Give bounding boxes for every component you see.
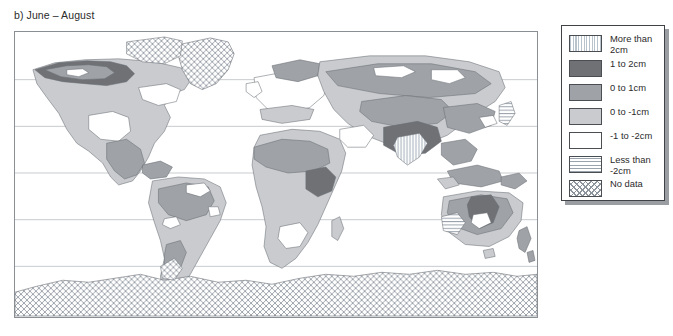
legend-swatch-1-to-2cm	[569, 60, 602, 77]
legend-label-0-to-1cm: 0 to 1cm	[610, 83, 646, 94]
legend-item-0-to-minus-1cm: 0 to -1cm	[569, 107, 661, 125]
legend-swatch-0-to-1cm	[569, 84, 602, 101]
legend-item-1-to-2cm: 1 to 2cm	[569, 59, 661, 77]
legend-label-more-than-2cm: More than 2cm	[610, 34, 652, 55]
legend-item-no-data: No data	[569, 179, 661, 197]
legend-item-less-than-minus-2cm: Less than -2cm	[569, 155, 661, 176]
legend-label-1-to-2cm: 1 to 2cm	[610, 59, 646, 70]
world-map	[14, 31, 538, 318]
legend-label-0-to-minus-1cm: 0 to -1cm	[610, 107, 649, 118]
legend-swatch-less-than-minus-2cm	[569, 156, 602, 173]
legend-swatch-no-data	[569, 180, 602, 197]
legend-label-less-than-minus-2cm: Less than -2cm	[610, 155, 651, 176]
legend-label-minus-1-to-minus-2cm: -1 to -2cm	[610, 131, 652, 142]
map-legend: More than 2cm 1 to 2cm 0 to 1cm 0 to -1c…	[561, 25, 665, 201]
legend-swatch-more-than-2cm	[569, 35, 602, 52]
legend-swatch-0-to-minus-1cm	[569, 108, 602, 125]
legend-item-0-to-1cm: 0 to 1cm	[569, 83, 661, 101]
map-canvas	[15, 32, 537, 317]
legend-swatch-minus-1-to-minus-2cm	[569, 132, 602, 149]
legend-item-more-than-2cm: More than 2cm	[569, 34, 661, 55]
legend-item-minus-1-to-minus-2cm: -1 to -2cm	[569, 131, 661, 149]
figure-caption: b) June – August	[14, 9, 94, 21]
legend-label-no-data: No data	[610, 179, 643, 190]
